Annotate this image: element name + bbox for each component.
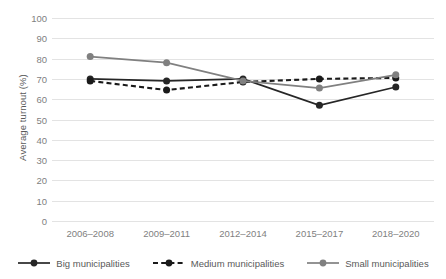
data-point-marker <box>316 85 323 92</box>
x-axis-tick-label: 2012–2014 <box>219 228 267 239</box>
data-point-marker <box>316 102 323 109</box>
legend-label: Medium municipalities <box>191 258 284 269</box>
y-axis-tick-label: 0 <box>42 216 47 227</box>
x-axis-tick-label: 2009–2011 <box>143 228 190 239</box>
y-axis-tick-label: 80 <box>36 53 47 64</box>
y-axis-tick-label: 90 <box>36 33 47 44</box>
legend-label: Big municipalities <box>56 258 129 269</box>
legend-item[interactable]: Small municipalities <box>306 257 428 269</box>
dashed-line-marker-icon <box>152 257 186 269</box>
data-point-marker <box>392 71 399 78</box>
y-axis-tick-label: 60 <box>36 94 47 105</box>
data-point-marker <box>240 77 247 84</box>
chart-legend: Big municipalitiesMedium municipalitiesS… <box>0 250 446 276</box>
gridline <box>52 221 434 222</box>
x-axis-tick-label: 2006–2008 <box>66 228 114 239</box>
y-axis-tick-label: 70 <box>36 73 47 84</box>
x-axis-tick-label: 2015–2017 <box>296 228 344 239</box>
data-point-marker <box>87 53 94 60</box>
series-layer <box>52 18 434 221</box>
legend-item[interactable]: Medium municipalities <box>152 257 284 269</box>
plot-area: 1009080706050403020100 2006–20082009–201… <box>52 18 434 221</box>
data-point-marker <box>163 87 170 94</box>
y-axis-tick-label: 40 <box>36 134 47 145</box>
y-axis-tick-label: 100 <box>31 13 47 24</box>
legend-label: Small municipalities <box>345 258 428 269</box>
turnout-line-chart: Average turnout (%) 10090807060504030201… <box>0 0 446 279</box>
gray-line-marker-icon <box>306 257 340 269</box>
y-axis-tick-label: 10 <box>36 195 47 206</box>
data-point-marker <box>87 77 94 84</box>
legend-item[interactable]: Big municipalities <box>17 257 129 269</box>
y-axis-tick-label: 30 <box>36 155 47 166</box>
data-point-marker <box>163 77 170 84</box>
y-axis-title: Average turnout (%) <box>17 38 28 198</box>
y-axis-tick-label: 50 <box>36 114 47 125</box>
data-point-marker <box>316 75 323 82</box>
y-axis-tick-label: 20 <box>36 175 47 186</box>
data-point-marker <box>163 59 170 66</box>
data-point-marker <box>392 84 399 91</box>
x-axis-tick-label: 2018–2020 <box>372 228 420 239</box>
solid-line-marker-icon <box>17 257 51 269</box>
